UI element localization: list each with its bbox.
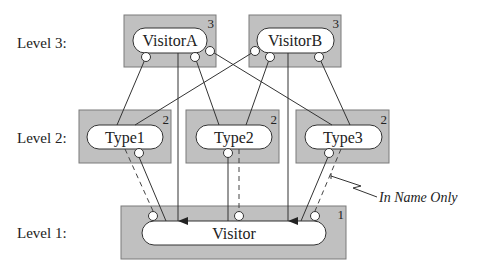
level-2-label: Level 2: xyxy=(17,130,67,146)
type3-node: Type3 2 xyxy=(296,110,389,163)
port-icon xyxy=(142,53,151,62)
type3-level-number: 2 xyxy=(381,112,388,127)
dependency-diagram: Level 3: Level 2: Level 1: VisitorA 3 Vi… xyxy=(0,0,478,271)
visitorA-level-number: 3 xyxy=(208,16,215,31)
in-name-only-label: In Name Only xyxy=(378,190,458,205)
port-icon xyxy=(325,149,334,158)
port-icon xyxy=(149,212,158,221)
type2-level-number: 2 xyxy=(271,112,278,127)
port-icon xyxy=(311,212,320,221)
type1-label: Type1 xyxy=(105,129,145,147)
type1-level-number: 2 xyxy=(163,112,170,127)
type2-label: Type2 xyxy=(214,129,254,147)
visitorA-node: VisitorA 3 xyxy=(124,15,216,67)
type1-node: Type1 2 xyxy=(79,110,171,163)
port-icon xyxy=(135,149,144,158)
port-icon xyxy=(206,47,215,56)
visitor-label: Visitor xyxy=(212,225,256,242)
visitorB-node: VisitorB 3 xyxy=(249,15,341,67)
visitor-level-number: 1 xyxy=(338,207,345,222)
port-icon xyxy=(224,149,233,158)
in-name-only-annotation: In Name Only xyxy=(331,173,458,205)
port-icon xyxy=(191,53,200,62)
visitorB-label: VisitorB xyxy=(268,32,322,49)
level-1-label: Level 1: xyxy=(17,225,67,241)
level-3-label: Level 3: xyxy=(17,35,67,51)
visitorA-label: VisitorA xyxy=(142,32,197,49)
type3-label: Type3 xyxy=(323,129,363,147)
lightning-pointer-icon xyxy=(331,176,377,197)
port-icon xyxy=(235,212,244,221)
port-icon xyxy=(315,53,324,62)
port-icon xyxy=(266,53,275,62)
visitorB-level-number: 3 xyxy=(333,16,340,31)
port-icon xyxy=(251,47,260,56)
